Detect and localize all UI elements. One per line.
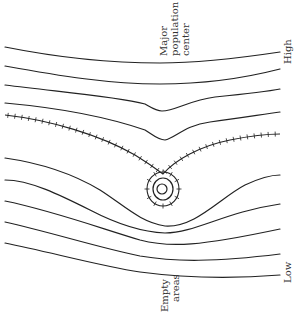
tick-mark (15, 114, 16, 119)
label-low: Low (282, 261, 293, 283)
tick-loop (147, 172, 179, 206)
contour-diagram: Major population center Empty areas High… (0, 0, 295, 314)
ridge-line (5, 115, 163, 174)
label-high: High (282, 39, 293, 64)
tick-mark (21, 115, 22, 120)
tick-mark (35, 117, 36, 122)
ridge-line (163, 134, 280, 174)
tick-mark (247, 134, 248, 139)
contour-line (5, 158, 280, 226)
tick-mark (28, 116, 29, 121)
tick-mark (233, 137, 234, 142)
tick-mark (261, 133, 262, 138)
tick-mark (226, 138, 227, 143)
tick-mark (254, 133, 255, 138)
peak-contour (157, 184, 167, 194)
peak-contours (153, 178, 173, 200)
contour-line (5, 66, 280, 84)
tick-mark (240, 136, 241, 141)
contour-lines (5, 47, 280, 277)
peak-contour (153, 178, 173, 200)
tick-mark (42, 119, 43, 124)
contour-line (5, 243, 280, 277)
ridge-ticks (8, 113, 276, 209)
contour-line (5, 47, 280, 63)
contour-line (5, 201, 280, 245)
label-major-population-center: Major population center (158, 0, 191, 56)
tick-mark (49, 120, 50, 125)
tick-mark (8, 113, 9, 118)
label-empty-areas: Empty areas (159, 274, 181, 312)
